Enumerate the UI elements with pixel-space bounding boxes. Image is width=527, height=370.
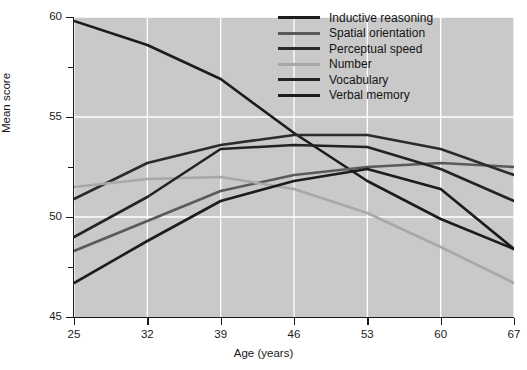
legend-swatch (278, 78, 320, 81)
legend-item: Verbal memory (278, 88, 433, 104)
y-tick (66, 117, 74, 118)
x-tick (221, 318, 222, 325)
legend-item: Perceptual speed (278, 41, 433, 57)
x-tick (74, 318, 75, 325)
y-tick-minor (68, 167, 74, 168)
x-tick-label: 25 (54, 329, 94, 341)
y-tick-label: 55 (22, 111, 62, 123)
x-tick-label: 39 (201, 329, 241, 341)
legend: Inductive reasoningSpatial orientationPe… (278, 10, 433, 103)
y-tick-minor (68, 267, 74, 268)
legend-swatch (278, 63, 320, 66)
x-tick-label: 46 (274, 329, 314, 341)
legend-label: Verbal memory (329, 89, 410, 101)
y-tick (66, 317, 74, 318)
legend-swatch (278, 47, 320, 50)
series-line (74, 177, 514, 283)
x-tick-label: 32 (127, 329, 167, 341)
legend-label: Vocabulary (329, 74, 388, 86)
y-axis-title: Mean score (0, 73, 12, 133)
x-tick (514, 318, 515, 325)
series-line (74, 163, 514, 251)
x-tick (367, 318, 368, 325)
y-tick (66, 217, 74, 218)
chart-figure: 4550556025323946536067 Mean score Age (y… (0, 0, 527, 370)
legend-label: Inductive reasoning (329, 12, 433, 24)
y-tick-label: 60 (22, 11, 62, 23)
x-tick-label: 67 (494, 329, 527, 341)
x-tick-label: 53 (347, 329, 387, 341)
series-line (74, 169, 514, 283)
legend-item: Vocabulary (278, 72, 433, 88)
y-tick-minor (68, 67, 74, 68)
legend-label: Spatial orientation (329, 27, 425, 39)
legend-label: Number (329, 58, 372, 70)
x-tick (294, 318, 295, 325)
x-axis-title: Age (years) (0, 347, 527, 359)
legend-swatch (278, 16, 320, 19)
x-tick (147, 318, 148, 325)
y-tick-label: 50 (22, 211, 62, 223)
legend-item: Inductive reasoning (278, 10, 433, 26)
legend-label: Perceptual speed (329, 43, 422, 55)
y-tick (66, 17, 74, 18)
x-tick (441, 318, 442, 325)
legend-item: Spatial orientation (278, 26, 433, 42)
legend-swatch (278, 32, 320, 35)
legend-item: Number (278, 57, 433, 73)
y-tick-label: 45 (22, 311, 62, 323)
x-tick-label: 60 (421, 329, 461, 341)
legend-swatch (278, 94, 320, 97)
